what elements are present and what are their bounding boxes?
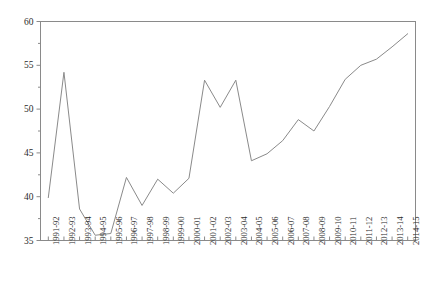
y-tick-label: 35 [0, 236, 34, 246]
y-tick-label: 50 [0, 104, 34, 114]
x-tick-label: 1992-93 [68, 216, 77, 245]
x-tick-label: 2009-10 [334, 216, 343, 245]
x-tick-label: 1991-92 [52, 216, 61, 245]
x-tick-label: 2002-03 [224, 216, 233, 245]
x-tick-label: 2000-01 [193, 216, 202, 245]
x-tick-label: 2014-15 [412, 216, 421, 245]
x-tick-label: 1999-00 [177, 216, 186, 245]
y-tick-label: 55 [0, 60, 34, 70]
chart-container: 354045505560 1991-921992-931993-941994-9… [0, 0, 434, 295]
x-tick-label: 2010-11 [349, 216, 358, 244]
x-tick-label: 1993-94 [84, 216, 93, 245]
x-tick-label: 1997-98 [146, 216, 155, 245]
x-tick-label: 2006-07 [287, 216, 296, 245]
x-tick-label: 2004-05 [255, 216, 264, 245]
x-tick-label: 2011-12 [365, 216, 374, 244]
x-tick-label: 1994-95 [99, 216, 108, 245]
x-tick-label: 2003-04 [240, 216, 249, 245]
x-tick-label: 1996-97 [130, 216, 139, 245]
x-tick-label: 2005-06 [271, 216, 280, 245]
y-tick-label: 40 [0, 192, 34, 202]
x-tick-label: 2012-13 [380, 216, 389, 245]
x-tick-label: 2013-14 [396, 216, 405, 245]
x-tick-label: 1995-96 [115, 216, 124, 245]
y-tick-label: 60 [0, 17, 34, 27]
x-tick-label: 1998-99 [162, 216, 171, 245]
axis-frame [41, 22, 416, 241]
data-series-line [48, 34, 407, 235]
x-tick-label: 2001-02 [209, 216, 218, 245]
chart-plot-area [0, 0, 434, 295]
y-tick-label: 45 [0, 148, 34, 158]
x-tick-label: 2008-09 [318, 216, 327, 245]
y-axis-ticks [37, 22, 41, 241]
x-tick-label: 2007-08 [302, 216, 311, 245]
